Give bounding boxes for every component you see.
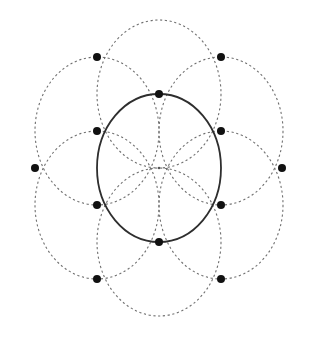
inner-point-4	[155, 238, 163, 246]
outer-point-1	[93, 53, 101, 61]
outer-point-4	[217, 275, 225, 283]
center-point	[158, 167, 160, 169]
outer-point-5	[93, 275, 101, 283]
outer-point-2	[217, 53, 225, 61]
seed-of-life-diagram	[0, 0, 316, 343]
inner-point-6	[93, 127, 101, 135]
outer-point-3	[278, 164, 286, 172]
inner-point-2	[217, 127, 225, 135]
outer-point-6	[31, 164, 39, 172]
intersection-points	[31, 53, 286, 283]
inner-point-5	[93, 201, 101, 209]
inner-point-3	[217, 201, 225, 209]
inner-point-1	[155, 90, 163, 98]
